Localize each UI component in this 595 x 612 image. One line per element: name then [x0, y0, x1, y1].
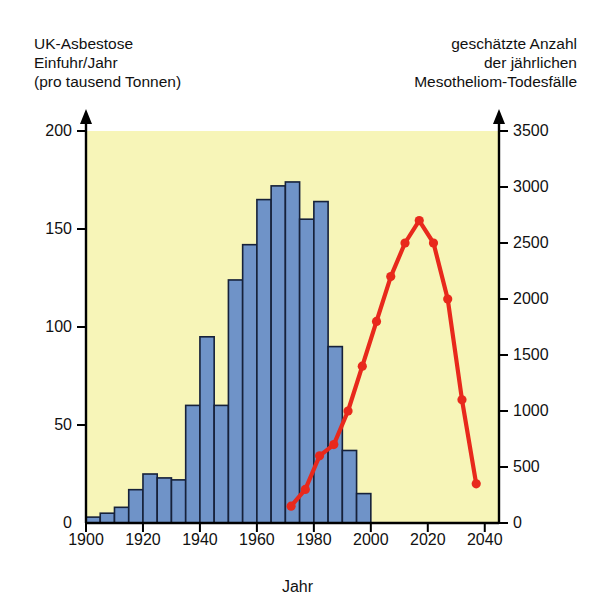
axis-arrow [493, 109, 505, 124]
x-axis-tick-label: 1980 [296, 531, 332, 549]
bar [186, 405, 200, 523]
y-axis-tick-label: 150 [45, 220, 72, 238]
data-point [400, 238, 409, 247]
bar [243, 245, 257, 523]
data-point [286, 502, 295, 511]
y2-axis-tick-label: 3000 [513, 178, 549, 196]
data-point [315, 451, 324, 460]
y-axis-tick-label: 200 [45, 122, 72, 140]
data-point [457, 395, 466, 404]
bar [143, 474, 157, 523]
axis-arrow [80, 109, 92, 124]
data-point [343, 406, 352, 415]
x-axis-tick-label: 2020 [410, 531, 446, 549]
data-point [372, 317, 381, 326]
x-axis-title: Jahr [0, 578, 595, 596]
bar [314, 202, 328, 523]
data-point [358, 362, 367, 371]
x-axis-tick-label: 1920 [125, 531, 161, 549]
data-point [429, 238, 438, 247]
y2-axis-tick-label: 1000 [513, 402, 549, 420]
x-axis-tick-label: 2040 [467, 531, 503, 549]
bar [100, 513, 114, 523]
bar [342, 450, 356, 523]
x-axis-tick-label: 1940 [182, 531, 218, 549]
y-axis-tick-label: 100 [45, 318, 72, 336]
bar [114, 507, 128, 523]
bar [285, 182, 299, 523]
data-point [386, 272, 395, 281]
bar [357, 494, 371, 523]
data-point [329, 440, 338, 449]
chart-figure: UK-Asbestose Einfuhr/Jahr (pro tausend T… [0, 0, 595, 612]
x-axis-tick-label: 2000 [353, 531, 389, 549]
y2-axis-tick-label: 1500 [513, 346, 549, 364]
x-axis-tick-label: 1960 [239, 531, 275, 549]
bar [157, 478, 171, 523]
y2-axis-tick-label: 500 [513, 458, 540, 476]
bar [171, 480, 185, 523]
data-point [415, 216, 424, 225]
bar [200, 337, 214, 523]
bar [228, 280, 242, 523]
bar [214, 405, 228, 523]
data-point [443, 294, 452, 303]
data-point [472, 479, 481, 488]
data-point [301, 485, 310, 494]
y2-axis-tick-label: 2000 [513, 290, 549, 308]
y-axis-tick-label: 0 [63, 514, 72, 532]
x-axis-tick-label: 1900 [68, 531, 104, 549]
y2-axis-tick-label: 2500 [513, 234, 549, 252]
y-axis-tick-label: 50 [54, 416, 72, 434]
y2-axis-tick-label: 3500 [513, 122, 549, 140]
bar [257, 200, 271, 523]
plot-area [0, 0, 595, 612]
bar [129, 490, 143, 523]
bar [271, 186, 285, 523]
y2-axis-tick-label: 0 [513, 514, 522, 532]
